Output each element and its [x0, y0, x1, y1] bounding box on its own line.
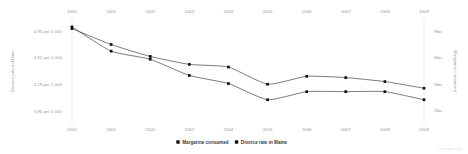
- x-axis-top-label: 2001: [106, 9, 116, 14]
- data-point-marker: [344, 76, 347, 79]
- right-axis: 8lbs6lbs4lbs2lbsMargarine consumed: [424, 18, 458, 124]
- x-axis-top-label: 2002: [145, 9, 155, 14]
- legend-marker-1: [176, 140, 179, 143]
- x-axis-top-label: 2007: [341, 9, 351, 14]
- data-point-marker: [384, 90, 387, 93]
- data-point-marker: [110, 43, 113, 46]
- series-layer: [71, 26, 426, 102]
- legend-label-1: Margarine consumed: [182, 140, 228, 145]
- data-point-marker: [110, 50, 113, 53]
- x-axis-top-label: 2006: [302, 9, 312, 14]
- legend-item[interactable]: Margarine consumed: [176, 140, 228, 145]
- data-point-marker: [266, 83, 269, 86]
- x-axis-bottom-label: 2007: [341, 127, 351, 132]
- left-axis-tick-label: 4.29 per 1,000: [34, 82, 63, 87]
- left-axis-tick-label: 4.62 per 1,000: [34, 55, 63, 60]
- data-point-marker: [384, 80, 387, 83]
- right-axis-tick-label: 6lbs: [434, 55, 443, 60]
- x-axis-bottom-label: 2000: [67, 127, 77, 132]
- left-axis-tick-label: 4.95 per 1,000: [34, 29, 63, 34]
- chart-legend: Margarine consumedDivorce rate in Maine: [176, 140, 287, 145]
- data-point-marker: [188, 74, 191, 77]
- data-point-marker: [305, 75, 308, 78]
- x-axis-bottom-label: 2002: [145, 127, 155, 132]
- data-point-marker: [227, 82, 230, 85]
- x-axis-top-label: 2003: [184, 9, 194, 14]
- x-axis-top-label: 2005: [263, 9, 273, 14]
- x-axis-bottom-label: 2003: [184, 127, 194, 132]
- left-axis: 4.95 per 1,0004.62 per 1,0004.29 per 1,0…: [10, 18, 72, 124]
- right-axis-tick-label: 4lbs: [434, 82, 443, 87]
- left-axis-title: Divorce rate in Maine: [10, 50, 15, 92]
- legend-marker-2: [235, 140, 238, 143]
- legend-item[interactable]: Divorce rate in Maine: [235, 140, 288, 145]
- x-axis-bottom: 2000200120022003200420052006200720082009: [67, 127, 429, 132]
- data-point-marker: [149, 55, 152, 58]
- data-point-marker: [423, 98, 426, 101]
- x-axis-bottom-label: 2006: [302, 127, 312, 132]
- data-point-marker: [71, 26, 74, 29]
- x-axis-top-label: 2009: [419, 9, 429, 14]
- watermark-text: tylervigen.com: [439, 147, 462, 151]
- x-axis-top-label: 2008: [380, 9, 390, 14]
- x-axis-top-label: 2000: [67, 9, 77, 14]
- data-point-marker: [227, 66, 230, 69]
- x-axis-top-label: 2004: [224, 9, 234, 14]
- watermark: tylervigen.com: [439, 147, 462, 151]
- data-point-marker: [188, 63, 191, 66]
- series-line: [72, 27, 424, 100]
- x-axis-bottom-label: 2008: [380, 127, 390, 132]
- right-axis-title: Margarine consumed: [453, 50, 458, 92]
- chart-container: 4.95 per 1,0004.62 per 1,0004.29 per 1,0…: [0, 0, 468, 154]
- x-axis-top: 2000200120022003200420052006200720082009: [67, 9, 429, 14]
- x-axis-bottom-label: 2001: [106, 127, 116, 132]
- data-point-marker: [266, 98, 269, 101]
- series-divorce-rate-in-maine: [71, 26, 426, 102]
- left-axis-tick-label: 3.96 per 1,000: [34, 109, 63, 114]
- spurious-correlation-line-chart: 4.95 per 1,0004.62 per 1,0004.29 per 1,0…: [0, 0, 468, 154]
- legend-label-2: Divorce rate in Maine: [241, 140, 288, 145]
- right-axis-tick-label: 8lbs: [434, 29, 443, 34]
- data-point-marker: [423, 87, 426, 90]
- data-point-marker: [149, 58, 152, 61]
- x-axis-bottom-label: 2004: [224, 127, 234, 132]
- x-axis-bottom-label: 2005: [263, 127, 273, 132]
- right-axis-tick-label: 2lbs: [434, 108, 443, 113]
- series-margarine-consumed: [71, 27, 426, 89]
- x-axis-bottom-label: 2009: [419, 127, 429, 132]
- data-point-marker: [305, 90, 308, 93]
- data-point-marker: [344, 90, 347, 93]
- series-line: [72, 29, 424, 89]
